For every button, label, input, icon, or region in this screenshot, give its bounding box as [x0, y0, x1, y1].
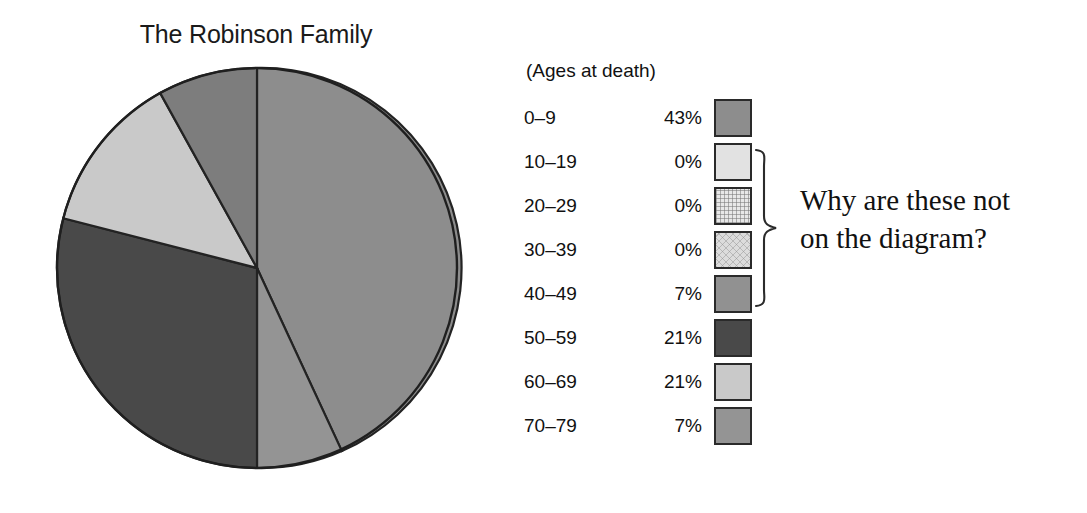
- brace-icon: [754, 148, 788, 308]
- pie-chart-svg: [50, 60, 470, 480]
- legend-percent-value: 0%: [624, 195, 714, 217]
- legend-percent-value: 7%: [624, 415, 714, 437]
- legend-swatch-40-49: [714, 275, 752, 313]
- legend-swatch-60-69: [714, 363, 752, 401]
- legend-percent-value: 0%: [624, 239, 714, 261]
- legend-percent-value: 21%: [624, 371, 714, 393]
- legend-range-label: 30–39: [524, 239, 624, 261]
- brace-svg: [754, 148, 788, 308]
- legend-range-label: 70–79: [524, 415, 624, 437]
- legend-percent-value: 21%: [624, 327, 714, 349]
- legend-range-label: 60–69: [524, 371, 624, 393]
- legend-range-label: 40–49: [524, 283, 624, 305]
- legend-row-50-59: 50–59 21%: [524, 316, 814, 360]
- legend-percent-value: 43%: [624, 107, 714, 129]
- annotation-question: Why are these not on the diagram?: [800, 182, 1080, 257]
- page-title: The Robinson Family: [0, 20, 512, 49]
- legend-swatch-0-9: [714, 99, 752, 137]
- legend-swatch-20-29: [714, 187, 752, 225]
- legend-swatch-30-39: [714, 231, 752, 269]
- legend-swatch-50-59: [714, 319, 752, 357]
- legend-range-label: 0–9: [524, 107, 624, 129]
- pie-chart: [50, 60, 470, 480]
- legend-percent-value: 7%: [624, 283, 714, 305]
- legend-range-label: 50–59: [524, 327, 624, 349]
- annotation-line-2: on the diagram?: [800, 220, 1080, 258]
- legend-swatch-70-79: [714, 407, 752, 445]
- annotation-line-1: Why are these not: [800, 182, 1080, 220]
- figure-root: The Robinson Family (Ages at death) 0–9 …: [0, 0, 1087, 513]
- legend-range-label: 10–19: [524, 151, 624, 173]
- legend-range-label: 20–29: [524, 195, 624, 217]
- legend-caption: (Ages at death): [526, 60, 814, 82]
- legend-percent-value: 0%: [624, 151, 714, 173]
- legend-row-60-69: 60–69 21%: [524, 360, 814, 404]
- legend-row-0-9: 0–9 43%: [524, 96, 814, 140]
- legend-row-70-79: 70–79 7%: [524, 404, 814, 448]
- legend-swatch-10-19: [714, 143, 752, 181]
